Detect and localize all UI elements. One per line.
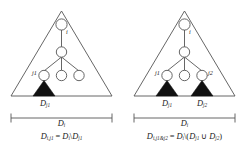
panel-right: i j1 j2 Dj1 Dj2 Di Di,j1&j2=Di\(Dj1∪Dj2) (123, 0, 246, 148)
node-label-i-left: i (66, 29, 68, 35)
span-label-di-left: Di (58, 120, 66, 129)
tree-edge-mid-leaf3-right (185, 57, 203, 71)
formula2-close-paren: ) (219, 132, 222, 141)
span-label-di-right: Di (181, 120, 189, 129)
formula-right: Di,j1&j2=Di\(Dj1∪Dj2) (147, 133, 222, 142)
formula2-lhs-sub: i,j1&j2 (153, 135, 168, 141)
dj2r-sub: j2 (203, 102, 207, 108)
node-label-j1-left: j1 (32, 70, 37, 76)
filled-subtree-j1-right (156, 81, 178, 97)
formula2-union: ∪ (201, 132, 207, 141)
di-sub: i (64, 122, 65, 128)
formula2-term1-sub: j1 (195, 135, 199, 141)
dj1r-sub: j1 (168, 102, 172, 108)
panel-left: i j1 Dj1 Di Di,j1=Di\Dj1 (0, 0, 123, 148)
formula-lhs-sub: i,j1 (47, 135, 54, 141)
tree-edge-mid-leaf3-left (62, 57, 80, 71)
tree-node-leaf-right-left (74, 70, 84, 80)
tree-node-leaf-j2-right (197, 70, 207, 80)
formula2-equals: = (170, 132, 175, 141)
formula-equals: = (56, 132, 61, 141)
tree-node-mid-left (56, 47, 66, 57)
formula-left: Di,j1=Di\Dj1 (41, 133, 83, 142)
tree-node-mid-right (179, 47, 189, 57)
node-label-j2-right: j2 (208, 70, 213, 76)
tree-edge-mid-leaf1-left (44, 57, 62, 71)
node-label-i-right: i (189, 29, 191, 35)
filled-subtree-j1-left (33, 81, 55, 97)
tree-node-leaf-j1-right (162, 70, 172, 80)
tree-edge-mid-leaf1-right (167, 57, 185, 71)
tree-node-leaf-mid-right (179, 70, 189, 80)
tree-node-leaf-j1-left (39, 70, 49, 80)
node-label-j1-right: j1 (155, 70, 160, 76)
dj1-sub: j1 (46, 102, 50, 108)
span-label-dj1-right: Dj1 (162, 100, 172, 109)
tree-node-leaf-mid-left (56, 70, 66, 80)
filled-subtree-j2-right (191, 81, 213, 97)
figure-root: i j1 Dj1 Di Di,j1=Di\Dj1 (0, 0, 246, 148)
dir-sub: i (187, 122, 188, 128)
formula-rhs2-sub: j1 (78, 135, 82, 141)
span-label-dj2-right: Dj2 (197, 100, 207, 109)
span-label-dj1-left: Dj1 (40, 100, 50, 109)
